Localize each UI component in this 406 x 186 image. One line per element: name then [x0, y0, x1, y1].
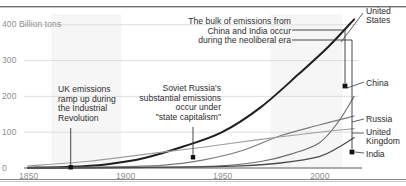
y-tick-label-100: 100 [2, 127, 16, 137]
emissions-chart: 0100200300400 Billion tons 1850190019502… [0, 0, 406, 186]
y-tick-label-400: 400 Billion tons [2, 19, 61, 29]
bottom-divider-rule-secondary [0, 181, 406, 182]
marker-china [343, 84, 348, 89]
connector-india [355, 152, 364, 153]
annotation-soviet-state-capitalism: Soviet Russia's substantial emissions oc… [128, 84, 221, 122]
marker-india [350, 150, 355, 155]
series-label-india: India [366, 150, 385, 159]
connector-russia [352, 119, 364, 122]
y-tick-label-0: 0 [2, 163, 7, 173]
series-label-united-kingdom: United Kingdom [366, 128, 400, 147]
connector-china [347, 82, 364, 88]
annotation-uk-industrial-revolution: UK emissions ramp up during the Industri… [58, 85, 120, 123]
series-label-russia: Russia [366, 115, 392, 124]
series-label-united-states: United States [366, 7, 391, 26]
y-tick-label-300: 300 [2, 55, 16, 65]
y-tick-label-200: 200 [2, 91, 16, 101]
marker-uk [69, 165, 73, 169]
marker-soviet [191, 155, 195, 159]
annotation-china-india-neoliberal: The bulk of emissions from China and Ind… [173, 17, 291, 46]
series-label-china: China [366, 79, 388, 88]
connector-united-states [341, 13, 363, 42]
bottom-divider-rule [0, 179, 406, 180]
